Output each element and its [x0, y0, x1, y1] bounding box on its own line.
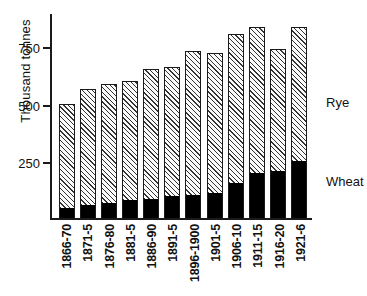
x-axis-tick-label: 1891-5	[166, 224, 180, 262]
bar-column[interactable]	[185, 14, 201, 218]
x-axis-tick-label-slot: 1886-90	[144, 224, 160, 294]
bar-segment-wheat[interactable]	[249, 173, 265, 218]
x-axis-tick-label: 1906-10	[230, 224, 244, 268]
bar-segment-wheat[interactable]	[185, 195, 201, 218]
x-axis-tick-label: 1886-90	[145, 224, 159, 268]
x-axis-tick-label-slot: 1901-5	[208, 224, 224, 294]
bar-segment-wheat[interactable]	[59, 208, 75, 218]
bar-segment-wheat[interactable]	[122, 200, 138, 218]
bar-column[interactable]	[164, 14, 180, 218]
y-axis-tick-label: 250	[18, 155, 40, 170]
bar-segment-rye[interactable]	[207, 53, 223, 193]
plot-area: 250500750	[50, 14, 312, 220]
bar-column[interactable]	[80, 14, 96, 218]
bar-segment-wheat[interactable]	[143, 199, 159, 218]
bar-segment-rye[interactable]	[101, 84, 117, 203]
x-axis-tick-label: 1871-5	[81, 224, 95, 262]
bar-segment-rye[interactable]	[185, 51, 201, 195]
x-axis-tick-label: 1911-15	[251, 224, 265, 268]
bar-segment-rye[interactable]	[143, 69, 159, 198]
bar-column[interactable]	[122, 14, 138, 218]
y-axis-tick	[43, 47, 50, 49]
x-axis-tick-label-slot: 1916-20	[272, 224, 288, 294]
x-axis-tick-label: 1866-70	[60, 224, 74, 268]
x-axis-tick-label-slot: 1911-15	[250, 224, 266, 294]
bar-segment-wheat[interactable]	[164, 196, 180, 218]
x-axis-tick-label: 1881-5	[124, 224, 138, 262]
x-axis-tick-label-slot: 1876-80	[102, 224, 118, 294]
bar-segment-rye[interactable]	[228, 34, 244, 183]
series-label-rye: Rye	[326, 95, 349, 110]
y-axis-tick-label: 750	[18, 41, 40, 56]
y-axis-tick	[43, 105, 50, 107]
x-axis-tick-label: 1896-1900	[188, 224, 202, 282]
x-axis-tick-label-slot: 1891-5	[165, 224, 181, 294]
series-label-wheat: Wheat	[326, 174, 364, 189]
bar-column[interactable]	[270, 14, 286, 218]
bar-column[interactable]	[228, 14, 244, 218]
x-axis-tick-label-slot: 1871-5	[80, 224, 96, 294]
x-axis-tick-labels: 1866-701871-51876-801881-51886-901891-51…	[52, 224, 314, 294]
bar-segment-wheat[interactable]	[207, 193, 223, 218]
x-axis-tick-label-slot: 1866-70	[59, 224, 75, 294]
bar-column[interactable]	[59, 14, 75, 218]
bar-segment-rye[interactable]	[122, 81, 138, 200]
x-axis-tick-label: 1921-6	[294, 224, 308, 262]
x-axis-tick-label: 1901-5	[209, 224, 223, 262]
bar-column[interactable]	[143, 14, 159, 218]
bar-segment-rye[interactable]	[80, 89, 96, 206]
bar-segment-wheat[interactable]	[228, 183, 244, 218]
bar-segment-rye[interactable]	[270, 49, 286, 171]
x-axis-tick-label-slot: 1896-1900	[187, 224, 203, 294]
y-axis-tick	[43, 162, 50, 164]
bar-segment-wheat[interactable]	[80, 205, 96, 218]
bar-segment-rye[interactable]	[249, 27, 265, 173]
bar-segment-wheat[interactable]	[270, 171, 286, 218]
x-axis-tick-label: 1876-80	[103, 224, 117, 268]
bar-group	[52, 14, 312, 218]
bar-column[interactable]	[207, 14, 223, 218]
y-axis-title: Thousand tonnes	[17, 0, 35, 151]
y-axis-tick-label: 500	[18, 98, 40, 113]
x-axis-tick-label-slot: 1921-6	[293, 224, 309, 294]
bar-column[interactable]	[101, 14, 117, 218]
x-axis-tick-label-slot: 1881-5	[123, 224, 139, 294]
bar-segment-wheat[interactable]	[291, 161, 307, 218]
bar-segment-rye[interactable]	[291, 27, 307, 161]
bar-segment-wheat[interactable]	[101, 203, 117, 218]
x-axis-line	[50, 218, 312, 220]
bar-segment-rye[interactable]	[164, 67, 180, 196]
bar-column[interactable]	[291, 14, 307, 218]
chart-figure: Thousand tonnes 250500750 1866-701871-51…	[0, 0, 367, 296]
x-axis-tick-label: 1916-20	[273, 224, 287, 268]
bar-segment-rye[interactable]	[59, 104, 75, 208]
bar-column[interactable]	[249, 14, 265, 218]
x-axis-tick-label-slot: 1906-10	[229, 224, 245, 294]
